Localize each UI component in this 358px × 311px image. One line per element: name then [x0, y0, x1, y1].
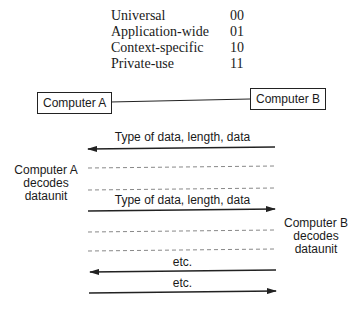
dashed-line: [88, 230, 275, 232]
message-label: Type of data, length, data: [90, 130, 275, 144]
computer-a-decodes-label: Computer A decodes dataunit: [14, 164, 78, 203]
dashed-line: [88, 166, 275, 168]
computer-b-box: Computer B: [250, 88, 326, 110]
arrow-etc-a-to-b: [89, 291, 276, 293]
arrow-etc-b-to-a: [90, 270, 276, 272]
dashed-line: [88, 249, 275, 251]
computer-a-box: Computer A: [37, 92, 112, 114]
dashed-line: [88, 188, 275, 190]
message-label: Type of data, length, data: [90, 193, 275, 207]
arrow-a-to-b: [88, 209, 275, 211]
message-label: etc.: [90, 276, 275, 290]
side-label-line: dataunit: [280, 243, 352, 256]
side-label-line: dataunit: [14, 190, 78, 203]
arrow-b-to-a: [88, 147, 275, 149]
message-label: etc.: [90, 255, 275, 269]
link-line: [110, 99, 250, 102]
computer-b-decodes-label: Computer B decodes dataunit: [280, 217, 352, 256]
